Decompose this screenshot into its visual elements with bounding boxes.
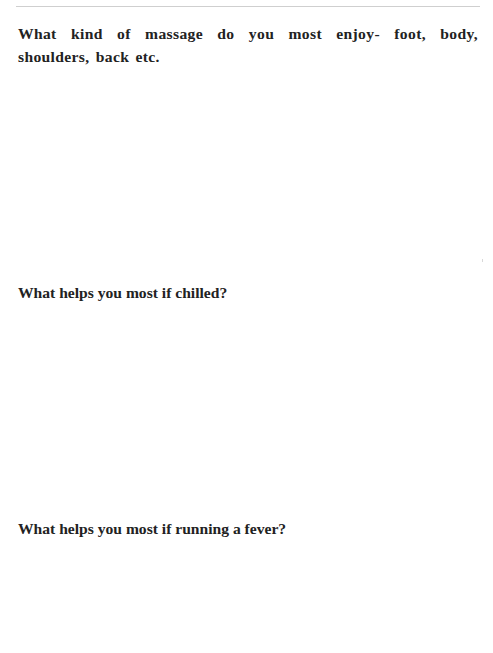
answer-area-fever-remedy[interactable]	[18, 548, 478, 648]
question-fever-remedy: What helps you most if running a fever?	[18, 517, 478, 540]
answer-area-chilled-remedy[interactable]	[18, 310, 478, 510]
scan-speck	[482, 259, 483, 262]
answer-area-massage-preference[interactable]	[18, 72, 478, 272]
question-massage-preference: What kind of massage do you most enjoy- …	[18, 22, 478, 68]
question-chilled-remedy: What helps you most if chilled?	[18, 281, 478, 304]
top-divider	[16, 6, 480, 7]
